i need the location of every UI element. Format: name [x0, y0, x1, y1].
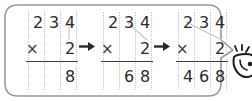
multiplier-digit: 2	[212, 39, 228, 59]
multiplicand-digit: 4	[62, 13, 78, 33]
hand-pointer-icon	[228, 44, 252, 80]
result-row-2: 6 8	[101, 66, 153, 87]
multiplicand-digit: 4	[212, 13, 228, 33]
figure-canvas: 2 3 4 × 2 8	[0, 0, 252, 101]
arrow-right-icon	[154, 41, 171, 52]
multiplicand-digit: 2	[30, 13, 46, 33]
result-digit: 6	[121, 67, 137, 87]
arrow-right-icon	[79, 41, 96, 52]
multiplicand-digit: 3	[46, 13, 62, 33]
result-digit: 8	[62, 67, 78, 87]
result-digit: 8	[137, 67, 153, 87]
multiplier-digit: 2	[62, 39, 78, 59]
sum-rule-1	[26, 61, 78, 62]
result-row-3: 4 6 8	[176, 66, 228, 87]
steps-container: 2 3 4 × 2 8	[0, 0, 252, 101]
result-digit: 8	[212, 67, 228, 87]
multiplier-digit: 2	[137, 39, 153, 59]
multiplier-row-2: 2	[101, 38, 153, 59]
multiplicand-digit: 4	[137, 13, 153, 33]
result-row-1: 8	[26, 66, 78, 87]
multiplicand-row-3: 2 3 4	[176, 12, 228, 33]
multiplicand-digit: 3	[121, 13, 137, 33]
multiplicand-row-2: 2 3 4	[101, 12, 153, 33]
multiplicand-digit: 2	[105, 13, 121, 33]
multiplicand-digit: 2	[180, 13, 196, 33]
result-digit: 6	[196, 67, 212, 87]
multiplication-step-3: 2 3 4 × 2 4 6 8	[176, 12, 228, 90]
sum-rule-3	[176, 61, 228, 62]
multiplier-row-1: 2	[26, 38, 78, 59]
multiplicand-digit: 3	[196, 13, 212, 33]
multiplier-row-3: 2	[176, 38, 228, 59]
multiplication-step-2: 2 3 4 × 2 6 8	[101, 12, 153, 90]
result-digit: 4	[180, 67, 196, 87]
multiplicand-row-1: 2 3 4	[26, 12, 78, 33]
multiplication-step-1: 2 3 4 × 2 8	[26, 12, 78, 90]
sum-rule-2	[101, 61, 153, 62]
